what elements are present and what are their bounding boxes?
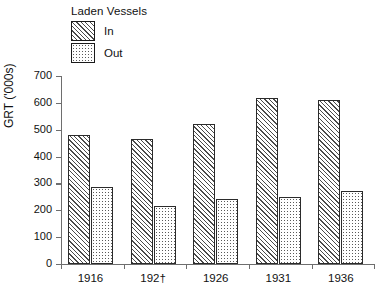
- y-tick: 500: [56, 130, 61, 131]
- y-tick: 700: [56, 76, 61, 77]
- x-tick: [312, 264, 313, 269]
- bar-group: 192†: [125, 76, 188, 264]
- chart-legend: Laden Vessels In Out: [60, 4, 210, 65]
- y-tick-label: 700: [34, 69, 52, 82]
- bar-group: 1931: [250, 76, 313, 264]
- y-tick: 100: [56, 237, 61, 238]
- y-axis-title: GRT ('000s): [2, 63, 16, 128]
- y-tick-label: 400: [34, 150, 52, 163]
- y-tick: 200: [56, 210, 61, 211]
- x-tick: [124, 264, 125, 269]
- x-tick-label: 1926: [203, 272, 229, 285]
- legend-swatch-dotted-icon: [71, 43, 95, 63]
- y-tick-label: 0: [46, 257, 52, 270]
- legend-swatch-hatch-icon: [71, 21, 95, 41]
- y-tick: 600: [56, 103, 61, 104]
- legend-title: Laden Vessels: [71, 4, 210, 18]
- bar-out: [154, 206, 176, 264]
- bar-in: [256, 98, 278, 264]
- legend-item-out: Out: [60, 43, 210, 63]
- bar-out: [91, 187, 113, 264]
- legend-item-in: In: [60, 21, 210, 41]
- bar-chart-figure: Laden Vessels In Out GRT ('000s) 0100200…: [0, 0, 382, 292]
- x-tick: [374, 264, 375, 269]
- bar-in: [193, 124, 215, 264]
- plot-area: 0100200300400500600700 1916192†192619311…: [61, 76, 374, 265]
- bar-in: [318, 100, 340, 264]
- y-tick: 400: [56, 157, 61, 158]
- legend-label-in: In: [104, 25, 114, 38]
- legend-label-out: Out: [104, 47, 123, 60]
- x-tick-label: 1916: [78, 272, 104, 285]
- y-tick-label: 500: [34, 123, 52, 136]
- y-tick-label: 100: [34, 230, 52, 243]
- bar-group: 1936: [313, 76, 376, 264]
- y-tick-label: 300: [34, 176, 52, 189]
- x-tick-label: 192†: [140, 272, 166, 285]
- bar-in: [68, 135, 90, 264]
- x-tick-label: 1931: [265, 272, 291, 285]
- y-tick: 300: [56, 183, 61, 184]
- bar-group: 1926: [187, 76, 250, 264]
- bar-series-container: 1916192†192619311936: [62, 76, 374, 264]
- x-tick-label: 1936: [328, 272, 354, 285]
- y-tick-label: 600: [34, 96, 52, 109]
- x-tick: [249, 264, 250, 269]
- bar-out: [216, 199, 238, 264]
- bar-out: [279, 197, 301, 264]
- bar-in: [131, 139, 153, 264]
- x-tick: [186, 264, 187, 269]
- x-axis-line: [61, 264, 374, 265]
- bar-out: [341, 191, 363, 264]
- x-tick: [61, 264, 62, 269]
- bar-group: 1916: [62, 76, 125, 264]
- y-tick-label: 200: [34, 203, 52, 216]
